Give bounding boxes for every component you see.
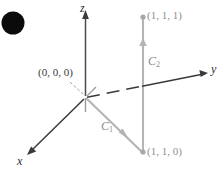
figure-canvas [0, 0, 223, 173]
coordinate-axes-figure: z y x (0, 0, 0) (1, 1, 1) (1, 1, 0) C1 C… [0, 0, 223, 173]
axis-x-negative-stub [87, 87, 96, 96]
point-111-dot [140, 14, 145, 19]
axis-label-y: y [211, 63, 216, 75]
point-111-label: (1, 1, 1) [147, 10, 182, 21]
curve-c1-line [86, 98, 142, 152]
curve-c2-arrowhead [139, 38, 147, 46]
bullet-marker [2, 12, 25, 35]
origin-label: (0, 0, 0) [38, 67, 73, 78]
axis-x-line [32, 99, 84, 150]
point-110-dot [140, 149, 145, 154]
curve-c2-letter: C [148, 54, 156, 68]
origin-leader-line [70, 82, 84, 95]
axis-y-line [142, 74, 201, 86]
curve-c1-letter: C [101, 119, 109, 133]
curve-c2-label: C2 [148, 55, 160, 67]
axis-y-arrowhead [199, 70, 208, 77]
axis-label-x: x [17, 155, 22, 167]
curve-c2-subscript: 2 [156, 60, 160, 69]
axis-label-z: z [80, 2, 85, 14]
curve-c1-label: C1 [101, 120, 113, 132]
point-110-label: (1, 1, 0) [147, 146, 182, 157]
curve-c1-subscript: 1 [109, 125, 113, 134]
